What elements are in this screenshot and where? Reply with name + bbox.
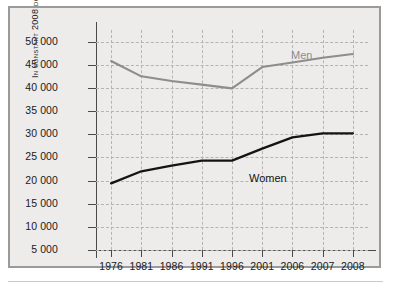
series-label-women: Women <box>249 172 287 184</box>
x-axis-tick <box>141 250 142 257</box>
chart-figure: In constant 2008 dollars 50 00045 00040 … <box>0 0 395 297</box>
plot-area <box>96 30 368 250</box>
y-axis-tick-label: 10 000 <box>25 220 58 232</box>
series-line-men <box>111 54 353 88</box>
x-axis-tick <box>292 250 293 257</box>
y-axis-tick <box>88 111 96 112</box>
x-axis-tick <box>262 250 263 257</box>
y-axis-tick <box>88 65 96 66</box>
y-axis-tick-label: 40 000 <box>25 81 58 93</box>
y-axis-tick-label: 5 000 <box>31 243 58 255</box>
x-axis-tick <box>111 250 112 257</box>
y-axis-tick-label: 35 000 <box>25 104 58 116</box>
series-line-women <box>111 133 353 183</box>
y-axis-tick <box>88 42 96 43</box>
footer-divider <box>8 281 383 282</box>
series-label-men: Men <box>291 49 312 61</box>
y-axis-tick <box>88 227 96 228</box>
y-axis-tick <box>88 157 96 158</box>
y-axis-tick-label: 30 000 <box>25 127 58 139</box>
y-axis-tick-label: 50 000 <box>25 35 58 47</box>
x-axis-tick <box>202 250 203 257</box>
x-axis-tick <box>323 250 324 257</box>
y-axis-tick <box>88 134 96 135</box>
x-axis-tick <box>232 250 233 257</box>
x-axis-tick-label: 2008 <box>333 260 373 272</box>
y-axis-tick <box>88 204 96 205</box>
y-axis-tick <box>88 181 96 182</box>
y-axis-tick <box>88 250 96 251</box>
x-axis-tick <box>172 250 173 257</box>
y-axis-tick-label: 20 000 <box>25 174 58 186</box>
y-axis-tick-label: 15 000 <box>25 197 58 209</box>
y-axis-tick-label: 25 000 <box>25 150 58 162</box>
y-axis-tick <box>88 88 96 89</box>
y-axis-tick-label: 45 000 <box>25 58 58 70</box>
chart-panel: In constant 2008 dollars 50 00045 00040 … <box>8 6 381 268</box>
x-axis-tick <box>353 250 354 257</box>
